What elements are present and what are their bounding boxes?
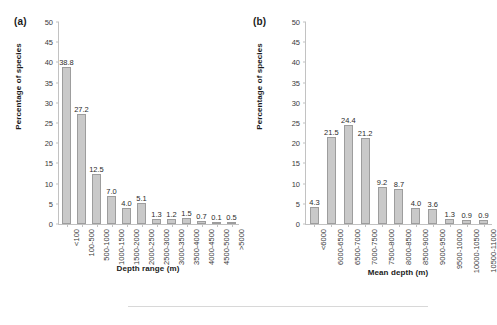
bar[interactable]: 3.6 [428, 209, 437, 224]
bar[interactable]: 7.0 [107, 196, 116, 224]
bar[interactable]: 8.7 [394, 189, 403, 224]
bar-slot: 24.46500-7000 [340, 22, 357, 224]
x-tick-mark [433, 224, 434, 227]
bar-value-label: 1.5 [181, 209, 191, 218]
x-tick-mark [314, 224, 315, 227]
panel-b-y-tick-mark [303, 143, 306, 144]
bar-slot: 0.5>5000 [224, 22, 239, 224]
panel-b-x-axis-title: Mean depth (m) [305, 268, 491, 277]
x-tick-mark [187, 224, 188, 227]
bar-value-label: 3.6 [428, 200, 438, 209]
bar[interactable]: 21.5 [327, 137, 336, 224]
panel-b-y-tick-mark [303, 163, 306, 164]
bar-slot: 8.78000-8500 [391, 22, 408, 224]
bar-value-label: 0.1 [211, 213, 221, 222]
panel-a-y-tick-mark [56, 22, 59, 23]
bar-slot: 1.53500-4000 [179, 22, 194, 224]
x-tick-mark [82, 224, 83, 227]
bar-value-label: 1.3 [151, 210, 161, 219]
panel-a-y-tick-mark [56, 203, 59, 204]
x-tick-mark [142, 224, 143, 227]
footer-divider [128, 306, 428, 307]
bar-value-label: 38.8 [59, 58, 74, 67]
panel-b-tag: (b) [253, 16, 266, 27]
bar-value-label: 0.5 [226, 213, 236, 222]
bar-slot: 0.910500-11000 [475, 22, 492, 224]
panel-b-y-tick-mark [303, 183, 306, 184]
bar[interactable]: 4.0 [411, 208, 420, 224]
x-tick-mark [365, 224, 366, 227]
bar-slot: 4.3<6000 [306, 22, 323, 224]
bar-value-label: 1.2 [166, 210, 176, 219]
panel-a-y-tick-mark [56, 123, 59, 124]
bar-slot: 21.27000-7500 [357, 22, 374, 224]
bar-slot: 1.32500-3000 [149, 22, 164, 224]
panel-b-y-axis-title: Percentage of species [255, 27, 264, 147]
x-tick-mark [172, 224, 173, 227]
bar-value-label: 9.2 [377, 178, 387, 187]
bar-slot: 5.12000-2500 [134, 22, 149, 224]
x-tick-mark [399, 224, 400, 227]
x-tick-mark [157, 224, 158, 227]
bar[interactable]: 27.2 [77, 114, 86, 224]
x-tick-mark [467, 224, 468, 227]
x-tick-mark [202, 224, 203, 227]
bar[interactable]: 12.5 [92, 174, 101, 225]
bar-value-label: 8.7 [394, 180, 404, 189]
panel-b-y-tick-mark [303, 224, 306, 225]
panel-a-y-tick-mark [56, 62, 59, 63]
bar-value-label: 7.0 [106, 187, 116, 196]
panel-a-y-axis-title: Percentage of species [14, 27, 23, 147]
x-tick-mark [112, 224, 113, 227]
bar[interactable]: 21.2 [361, 138, 370, 224]
bar-slot: 0.74000-4500 [194, 22, 209, 224]
panel-a-y-tick-mark [56, 42, 59, 43]
panel-a-tag: (a) [14, 16, 27, 27]
panel-a-y-tick-mark [56, 163, 59, 164]
panel-b-y-tick-mark [303, 82, 306, 83]
bar[interactable]: 38.8 [62, 67, 71, 224]
bar-value-label: 24.4 [341, 116, 356, 125]
bar-value-label: 27.2 [74, 105, 89, 114]
bar-slot: 3.69000-9500 [424, 22, 441, 224]
panel-b-bar-series: 4.3<600021.56000-650024.46500-700021.270… [306, 22, 492, 224]
panel-a-y-tick-mark [56, 143, 59, 144]
panel-a-bar-series: 38.8<10027.2100-50012.5500-10007.01000-1… [59, 22, 239, 224]
bar-slot: 7.01000-1500 [104, 22, 119, 224]
bar[interactable]: 5.1 [137, 203, 146, 224]
bar-value-label: 4.0 [121, 199, 131, 208]
panel-b-y-tick-mark [303, 22, 306, 23]
bar-value-label: 1.3 [444, 210, 454, 219]
bar[interactable]: 24.4 [344, 125, 353, 224]
panel-a-plot-area: 38.8<10027.2100-50012.5500-10007.01000-1… [58, 22, 239, 225]
bar-slot: 0.14500-5000 [209, 22, 224, 224]
bar-slot: 4.08500-9000 [407, 22, 424, 224]
bar-value-label: 5.1 [136, 194, 146, 203]
panel-a-y-tick-mark [56, 102, 59, 103]
x-tick-mark [382, 224, 383, 227]
bar-value-label: 0.9 [461, 211, 471, 220]
x-tick-mark [217, 224, 218, 227]
bar-value-label: 0.9 [478, 211, 488, 220]
chart-panel-b: (b) Percentage of species 4.3<600021.560… [243, 0, 495, 300]
chart-panel-a: (a) Percentage of species 38.8<10027.210… [0, 0, 248, 300]
x-tick-label: 10500-11000 [488, 185, 497, 229]
bar-slot: 1.39500-10000 [441, 22, 458, 224]
bar-slot: 9.27500-8000 [374, 22, 391, 224]
panel-b-y-tick-mark [303, 203, 306, 204]
x-tick-mark [416, 224, 417, 227]
panel-a-x-axis-title: Depth range (m) [58, 264, 238, 273]
bar[interactable]: 4.0 [122, 208, 131, 224]
x-tick-mark [450, 224, 451, 227]
bar-slot: 4.01500-2000 [119, 22, 134, 224]
bar-slot: 12.5500-1000 [89, 22, 104, 224]
x-tick-mark [67, 224, 68, 227]
bar-slot: 21.56000-6500 [323, 22, 340, 224]
panel-b-y-tick-mark [303, 42, 306, 43]
bar-slot: 1.23000-3500 [164, 22, 179, 224]
panel-a-y-tick-mark [56, 183, 59, 184]
panel-a-y-tick-mark [56, 224, 59, 225]
panel-b-y-tick-mark [303, 123, 306, 124]
bar[interactable]: 9.2 [378, 187, 387, 224]
panel-b-plot-area: 4.3<600021.56000-650024.46500-700021.270… [305, 22, 492, 225]
